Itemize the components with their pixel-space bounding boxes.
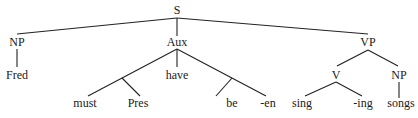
tree-edge — [17, 18, 177, 34]
tree-node-np2: NP — [391, 68, 407, 82]
tree-node-np1: NP — [9, 35, 25, 49]
tree-edge — [177, 18, 368, 34]
tree-node-vp: VP — [360, 35, 376, 49]
tree-node-s: S — [174, 3, 181, 17]
tree-edge — [305, 82, 336, 96]
tree-node-aux: Aux — [167, 35, 188, 49]
tree-node-be: be — [226, 96, 237, 110]
tree-edge — [216, 78, 232, 96]
tree-node-have: have — [166, 68, 189, 82]
tree-node-pres: Pres — [128, 96, 149, 110]
tree-node-ing: -ing — [353, 96, 372, 110]
tree-node-must: must — [73, 96, 97, 110]
tree-node-fred: Fred — [6, 68, 28, 82]
tree-edge — [368, 50, 398, 66]
tree-edge — [122, 78, 140, 96]
tree-node-v: V — [332, 68, 341, 82]
tree-edge — [336, 82, 362, 96]
tree-nodes: SNPAuxVPFredhavemustPresbe-enVNPsing-ing… — [6, 3, 415, 110]
tree-node-sing: sing — [292, 96, 312, 110]
tree-node-songs: songs — [387, 96, 415, 110]
tree-edge — [337, 50, 368, 66]
syntax-tree-diagram: SNPAuxVPFredhavemustPresbe-enVNPsing-ing… — [0, 0, 418, 118]
tree-node-en: -en — [260, 96, 275, 110]
tree-edges — [17, 18, 399, 98]
tree-edge — [177, 49, 266, 96]
